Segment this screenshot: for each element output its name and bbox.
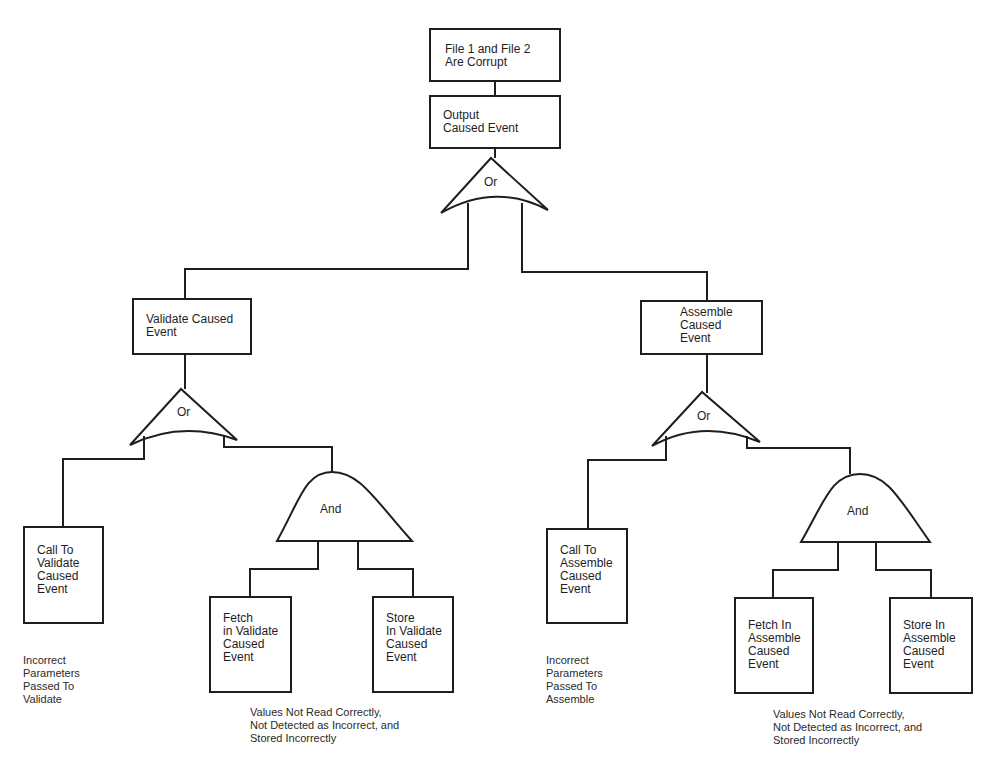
validate-or-gate-label: Or [177, 406, 190, 419]
top-event-label: File 1 and File 2 Are Corrupt [445, 43, 530, 69]
fetch-in-validate-box[interactable]: Fetch in Validate Caused Event [209, 596, 292, 693]
assemble-caused-label: Assemble Caused Event [680, 306, 733, 345]
assemble-params-note: Incorrect Parameters Passed To Assemble [546, 654, 603, 706]
assemble-caused-box[interactable]: Assemble Caused Event [640, 300, 763, 355]
connector-vor-to-and [224, 436, 332, 472]
assemble-and-gate-label: And [847, 505, 868, 518]
assemble-or-gate-label: Or [697, 410, 710, 423]
validate-params-note: Incorrect Parameters Passed To Validate [23, 654, 80, 706]
fetch-in-assemble-box[interactable]: Fetch In Assemble Caused Event [734, 597, 814, 694]
store-in-assemble-label: Store In Assemble Caused Event [903, 619, 956, 671]
connector-vand-to-fetch [250, 541, 318, 596]
store-in-validate-box[interactable]: Store In Validate Caused Event [372, 596, 454, 693]
top-or-gate-label: Or [484, 176, 497, 189]
connector-aand-to-fetch [773, 542, 838, 597]
call-to-validate-label: Call To Validate Caused Event [37, 544, 79, 596]
connector-aor-to-call [588, 436, 666, 528]
store-in-assemble-box[interactable]: Store In Assemble Caused Event [889, 597, 973, 694]
connector-vand-to-store [358, 541, 413, 596]
top-event-box[interactable]: File 1 and File 2 Are Corrupt [429, 28, 561, 82]
fetch-in-assemble-label: Fetch In Assemble Caused Event [748, 619, 801, 671]
connector-vor-to-call [63, 436, 144, 526]
connector-or-to-validate [185, 203, 468, 298]
connector-aand-to-store [876, 542, 931, 597]
output-caused-box[interactable]: Output Caused Event [429, 95, 561, 149]
call-to-assemble-box[interactable]: Call To Assemble Caused Event [546, 528, 628, 624]
validate-and-gate-shape [277, 472, 412, 541]
output-caused-label: Output Caused Event [443, 109, 518, 135]
validate-caused-box[interactable]: Validate Caused Event [132, 298, 252, 355]
fetch-in-validate-label: Fetch in Validate Caused Event [223, 612, 278, 664]
validate-values-note: Values Not Read Correctly, Not Detected … [250, 706, 399, 745]
validate-caused-label: Validate Caused Event [146, 313, 233, 339]
validate-and-gate-label: And [320, 503, 341, 516]
connector-aor-to-and [747, 436, 850, 474]
call-to-validate-box[interactable]: Call To Validate Caused Event [23, 526, 104, 624]
call-to-assemble-label: Call To Assemble Caused Event [560, 544, 613, 596]
fault-tree-diagram: File 1 and File 2 Are Corrupt Output Cau… [0, 0, 995, 768]
assemble-values-note: Values Not Read Correctly, Not Detected … [773, 708, 922, 747]
store-in-validate-label: Store In Validate Caused Event [386, 612, 442, 664]
connector-or-to-assemble [522, 203, 707, 300]
